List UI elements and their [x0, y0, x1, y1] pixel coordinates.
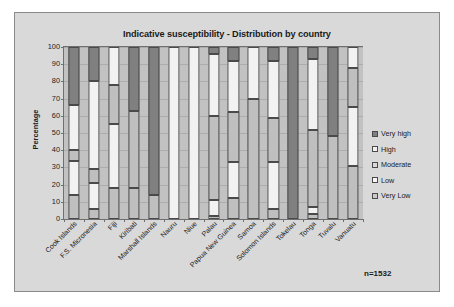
bar-segment[interactable]	[308, 47, 319, 59]
x-axis-tick-mark	[263, 219, 264, 222]
stacked-bar[interactable]	[168, 47, 179, 219]
bar-slot[interactable]	[263, 47, 283, 219]
bar-segment[interactable]	[328, 47, 339, 136]
bar-segment[interactable]	[188, 47, 199, 219]
bar-segment[interactable]	[128, 111, 139, 188]
legend-swatch-icon	[372, 131, 378, 137]
sample-size-annotation: n=1532	[364, 269, 391, 278]
bar-segment[interactable]	[328, 136, 339, 219]
y-axis-tick-label: 0	[56, 215, 60, 222]
bar-slot[interactable]	[104, 47, 124, 219]
bar-segment[interactable]	[88, 169, 99, 183]
bar-slot[interactable]	[323, 47, 343, 219]
bar-slot[interactable]	[84, 47, 104, 219]
bar-segment[interactable]	[348, 166, 359, 219]
bar-segment[interactable]	[88, 183, 99, 209]
bar-segment[interactable]	[88, 81, 99, 169]
bar-segment[interactable]	[208, 116, 219, 200]
bar-segment[interactable]	[228, 112, 239, 162]
bar-segment[interactable]	[208, 47, 219, 54]
bar-segment[interactable]	[68, 150, 79, 161]
bar-segment[interactable]	[248, 47, 259, 99]
bar-segment[interactable]	[268, 47, 279, 61]
stacked-bar[interactable]	[128, 47, 139, 219]
y-axis-tick-label: 10	[52, 198, 60, 205]
bar-segment[interactable]	[268, 209, 279, 219]
bar-slot[interactable]	[144, 47, 164, 219]
bar-segment[interactable]	[228, 198, 239, 219]
legend-item[interactable]: Moderate	[372, 157, 438, 173]
legend-swatch-icon	[372, 193, 378, 199]
bar-segment[interactable]	[268, 118, 279, 163]
bar-segment[interactable]	[228, 61, 239, 113]
bar-segment[interactable]	[148, 195, 159, 219]
y-axis-tick-label: 90	[52, 60, 60, 67]
bar-segment[interactable]	[68, 105, 79, 150]
y-axis-title: Percentage	[31, 100, 40, 160]
bar-segment[interactable]	[228, 47, 239, 61]
y-axis-tick-label: 50	[52, 129, 60, 136]
bar-segment[interactable]	[228, 162, 239, 198]
bar-segment[interactable]	[288, 47, 299, 219]
x-axis-tick-mark	[343, 219, 344, 222]
bar-slot[interactable]	[283, 47, 303, 219]
stacked-bar[interactable]	[88, 47, 99, 219]
bar-segment[interactable]	[68, 161, 79, 195]
bar-slot[interactable]	[224, 47, 244, 219]
x-axis-tick-mark	[303, 219, 304, 222]
stacked-bar[interactable]	[308, 47, 319, 219]
bar-segment[interactable]	[208, 200, 219, 215]
legend-item[interactable]: High	[372, 142, 438, 158]
bar-segment[interactable]	[148, 47, 159, 195]
bar-slot[interactable]	[124, 47, 144, 219]
bar-segment[interactable]	[68, 195, 79, 219]
legend-item[interactable]: Very high	[372, 126, 438, 142]
x-axis-tick-mark	[124, 219, 125, 222]
bar-segment[interactable]	[88, 47, 99, 81]
stacked-bar[interactable]	[208, 47, 219, 219]
bar-segment[interactable]	[108, 188, 119, 219]
legend-item[interactable]: Very Low	[372, 188, 438, 204]
stacked-bar[interactable]	[108, 47, 119, 219]
bar-segment[interactable]	[108, 85, 119, 124]
stacked-bar[interactable]	[248, 47, 259, 219]
stacked-bar[interactable]	[288, 47, 299, 219]
stacked-bar[interactable]	[188, 47, 199, 219]
bar-segment[interactable]	[308, 207, 319, 214]
bar-segment[interactable]	[108, 47, 119, 85]
bar-segment[interactable]	[308, 59, 319, 130]
bar-segment[interactable]	[208, 216, 219, 219]
bar-slot[interactable]	[184, 47, 204, 219]
y-axis-tick-label: 70	[52, 95, 60, 102]
bar-segment[interactable]	[268, 61, 279, 118]
legend-item[interactable]: Low	[372, 173, 438, 189]
bar-segment[interactable]	[308, 130, 319, 207]
legend-swatch-icon	[372, 146, 378, 152]
bar-slot[interactable]	[303, 47, 323, 219]
bar-segment[interactable]	[128, 188, 139, 219]
bar-segment[interactable]	[168, 47, 179, 219]
bar-segment[interactable]	[348, 107, 359, 165]
bar-segment[interactable]	[268, 162, 279, 208]
bar-segment[interactable]	[208, 54, 219, 116]
bar-segment[interactable]	[248, 99, 259, 219]
bar-slot[interactable]	[164, 47, 184, 219]
stacked-bar[interactable]	[268, 47, 279, 219]
bar-slot[interactable]	[243, 47, 263, 219]
plot-area: 0102030405060708090100	[63, 46, 363, 220]
bar-slot[interactable]	[64, 47, 84, 219]
stacked-bar[interactable]	[228, 47, 239, 219]
stacked-bar[interactable]	[148, 47, 159, 219]
bar-segment[interactable]	[88, 209, 99, 219]
bar-slot[interactable]	[343, 47, 363, 219]
stacked-bar[interactable]	[328, 47, 339, 219]
stacked-bar[interactable]	[348, 47, 359, 219]
bar-slot[interactable]	[204, 47, 224, 219]
bar-segment[interactable]	[108, 124, 119, 189]
bar-segment[interactable]	[128, 47, 139, 111]
bar-segment[interactable]	[348, 47, 359, 68]
bar-segment[interactable]	[348, 68, 359, 108]
bar-segment[interactable]	[68, 47, 79, 105]
stacked-bar[interactable]	[68, 47, 79, 219]
bar-segment[interactable]	[308, 214, 319, 219]
